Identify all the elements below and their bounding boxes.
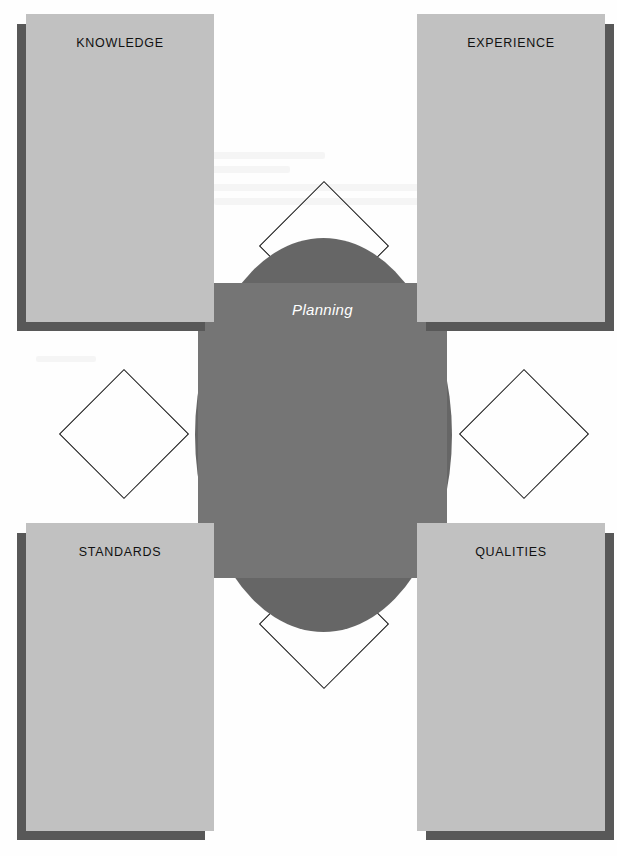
quadrant-experience-label: EXPERIENCE (417, 36, 605, 50)
quadrant-qualities-label: QUALITIES (417, 545, 605, 559)
quadrant-experience-panel[interactable]: EXPERIENCE (417, 14, 605, 322)
quadrant-knowledge-panel[interactable]: KNOWLEDGE (26, 14, 214, 322)
quadrant-standards-label: STANDARDS (26, 545, 214, 559)
quadrant-qualities-panel[interactable]: QUALITIES (417, 523, 605, 831)
quadrant-standards-panel[interactable]: STANDARDS (26, 523, 214, 831)
quadrant-qualities[interactable]: QUALITIES (380, 500, 617, 856)
quadrant-experience[interactable]: EXPERIENCE (380, 0, 617, 340)
quadrant-knowledge-label: KNOWLEDGE (26, 36, 214, 50)
quadrant-knowledge[interactable]: KNOWLEDGE (0, 0, 250, 340)
diagram-canvas: Planning KNOWLEDGE EXPERIENCE STANDARDS … (0, 0, 617, 856)
quadrant-standards[interactable]: STANDARDS (0, 500, 250, 856)
